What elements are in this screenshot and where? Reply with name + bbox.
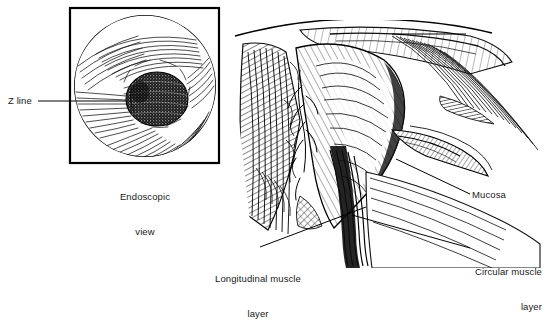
longitudinal-line1: Longitudinal muscle [196,273,320,285]
endoscopic-inset [70,8,219,163]
longitudinal-line2: layer [196,308,320,320]
label-circular-muscle-layer: Circular muscle layer [472,243,542,323]
circular-line1: Circular muscle [472,266,542,278]
label-mucosa: Mucosa [472,189,506,201]
gej-drawing [235,19,540,268]
endoscopic-caption-line2: view [110,226,180,238]
label-longitudinal-muscle-layer: Longitudinal muscle layer [196,250,320,323]
label-z-line: Z line [8,95,32,107]
circular-line2: layer [472,301,542,313]
endoscopic-caption-line1: Endoscopic [110,191,180,203]
upper-right-pocket [440,96,494,124]
shadow-pocket [296,196,322,229]
label-endoscopic-view: Endoscopic view [110,168,180,260]
left-wall [240,43,300,230]
